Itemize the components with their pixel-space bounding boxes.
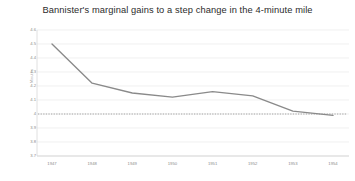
axis-lines <box>37 30 349 156</box>
chart-plot-area <box>0 0 355 181</box>
x-axis-tick-label: 1951 <box>193 162 233 166</box>
x-axis-tick-label: 1952 <box>233 162 273 166</box>
x-axis-tick-label: 1950 <box>152 162 192 166</box>
data-series-line <box>52 44 333 115</box>
x-axis-tick-label: 1948 <box>72 162 112 166</box>
gridlines <box>37 30 349 156</box>
x-axis-tick-label: 1947 <box>32 162 72 166</box>
x-axis-tick-label: 1953 <box>273 162 313 166</box>
x-axis-tick-label: 1949 <box>112 162 152 166</box>
x-axis-tick-label: 1954 <box>313 162 353 166</box>
series-line <box>52 44 333 115</box>
chart-container: Bannister's marginal gains to a step cha… <box>0 0 355 181</box>
